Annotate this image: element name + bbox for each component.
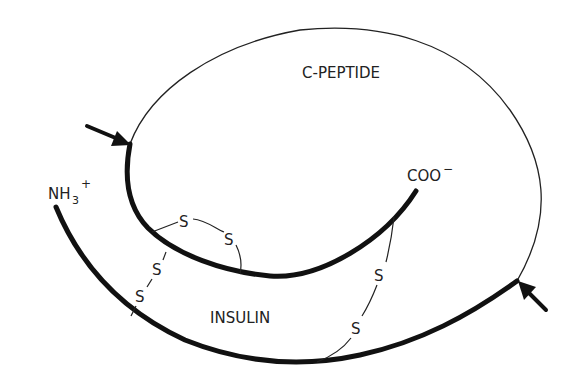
- sulfur-atom: S: [152, 261, 162, 279]
- c-peptide-label: C-PEPTIDE: [302, 64, 380, 82]
- c-terminus-text: COO: [407, 167, 441, 185]
- inter-chain-disulfide-right: S S: [317, 217, 394, 362]
- n-terminus-label: NH 3 +: [48, 177, 91, 207]
- cleavage-arrow-lower-right: [518, 281, 546, 310]
- sulfur-atom: S: [351, 320, 361, 338]
- sulfur-atom: S: [179, 213, 189, 231]
- n-terminus-superscript: +: [81, 177, 91, 191]
- a-chain: [56, 207, 517, 362]
- n-terminus-text: NH: [48, 185, 71, 203]
- c-terminus-superscript: −: [443, 162, 453, 176]
- inter-chain-disulfide-left: S S: [131, 252, 166, 316]
- insulin-label: INSULIN: [210, 309, 270, 327]
- c-terminus-label: COO −: [407, 162, 453, 185]
- sulfur-atom: S: [374, 267, 384, 285]
- b-chain: [127, 144, 416, 276]
- cleavage-arrow-upper-left: [87, 126, 131, 146]
- n-terminus-subscript: 3: [72, 194, 79, 207]
- sulfur-atom: S: [135, 288, 145, 306]
- proinsulin-diagram: S S S S S S C-PEPTIDE INSULIN NH 3 + COO: [0, 0, 580, 392]
- sulfur-atom: S: [224, 231, 234, 249]
